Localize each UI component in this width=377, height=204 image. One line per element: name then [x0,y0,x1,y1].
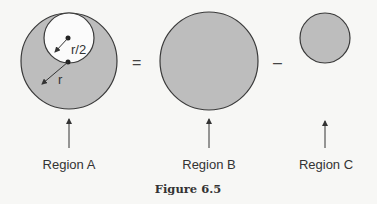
region-b-circle [160,12,258,110]
minus-sign: – [273,54,282,71]
region-a-label: Region A [43,157,96,172]
inner-radius-label: r/2 [71,42,86,57]
figure-caption: Figure 6.5 [155,182,221,196]
region-c-label: Region C [299,157,353,172]
equals-sign: = [132,54,141,71]
figure-diagram: r/2 r = – Region A Region B Region C Fig… [0,0,377,204]
region-b-label: Region B [182,157,235,172]
outer-radius-label: r [58,72,63,87]
region-a-shape: r/2 r [21,13,117,109]
region-c-circle [300,13,350,63]
